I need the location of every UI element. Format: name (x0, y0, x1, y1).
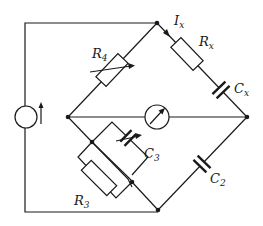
node-top (155, 21, 160, 26)
label-r3: R3 (73, 193, 90, 210)
resistor-r3-icon (81, 160, 116, 195)
label-cx: Cx (234, 81, 249, 98)
node-right (245, 115, 250, 120)
wire-left-lower (68, 117, 92, 142)
current-source-icon (15, 102, 44, 128)
label-c2: C2 (210, 171, 226, 188)
label-rx: Rx (198, 34, 214, 51)
node-parallel-bottom (130, 180, 135, 185)
bridge-circuit-diagram: R4 Ix Rx Cx C3 R3 (0, 0, 263, 226)
label-r4: R4 (91, 46, 108, 63)
label-c3: C3 (144, 146, 160, 163)
node-left (66, 115, 71, 120)
node-bottom (156, 208, 161, 213)
galvanometer-icon (145, 105, 169, 129)
label-ix: Ix (173, 13, 184, 30)
node-parallel-top (90, 140, 95, 145)
wire-parallel-right (92, 122, 148, 175)
wire-to-bottom (132, 182, 158, 210)
